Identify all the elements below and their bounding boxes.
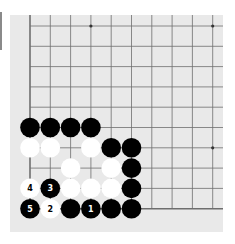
black-stone	[101, 138, 121, 158]
white-stone	[101, 158, 121, 178]
black-stone: 3	[41, 179, 61, 199]
black-stone	[41, 118, 61, 138]
black-stone	[122, 199, 142, 219]
grid-lines	[30, 15, 223, 209]
white-stone	[61, 158, 81, 178]
star-point	[89, 24, 92, 27]
move-number-label: 3	[48, 184, 54, 193]
white-stone	[41, 138, 61, 158]
white-stone: 2	[41, 199, 61, 219]
black-stone	[122, 138, 142, 158]
black-stone: 5	[20, 199, 40, 219]
go-board: 43521	[0, 0, 235, 244]
black-stone	[122, 179, 142, 199]
star-point	[211, 146, 214, 149]
white-stone	[81, 138, 101, 158]
move-number-label: 5	[27, 205, 33, 214]
move-number-label: 2	[48, 205, 54, 214]
black-stone	[101, 199, 121, 219]
black-stone	[81, 118, 101, 138]
move-number-label: 4	[27, 184, 33, 193]
black-stone	[20, 118, 40, 138]
white-stone	[61, 179, 81, 199]
white-stone	[20, 138, 40, 158]
black-stone	[122, 158, 142, 178]
black-stone	[61, 118, 81, 138]
white-stone	[81, 179, 101, 199]
star-point	[211, 24, 214, 27]
black-stone	[61, 199, 81, 219]
move-number-label: 1	[88, 205, 94, 214]
white-stone: 4	[20, 179, 40, 199]
black-stone: 1	[81, 199, 101, 219]
white-stone	[101, 179, 121, 199]
